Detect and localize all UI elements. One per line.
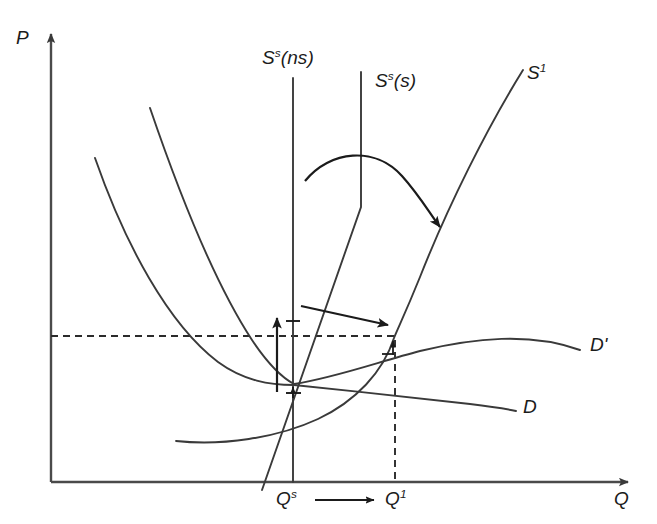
supply-ns-base: S (262, 47, 275, 68)
axis-tick-label-q-s: Qs (276, 489, 297, 508)
q-s-base: Q (276, 488, 291, 509)
curve-supply-one (176, 70, 523, 442)
curve-demand-prime (150, 108, 580, 384)
curve-demand (95, 158, 516, 411)
y-axis-label: P (16, 28, 29, 47)
curve-supply-storable (262, 72, 361, 490)
supply-s-base: S (375, 70, 388, 91)
supply-one-base: S (527, 62, 540, 83)
reference-lines-group (51, 336, 398, 482)
curve-label-supply-one: S1 (527, 63, 546, 82)
curve-label-demand-prime: D' (590, 335, 608, 354)
supply-demand-figure: P Q Ss(ns) Ss(s) S1 D' D Qs Q1 (0, 0, 657, 524)
annotations-group (277, 156, 440, 500)
curve-label-demand: D (523, 397, 537, 416)
demand-shift-arrow (301, 306, 388, 325)
q-1-base: Q (385, 488, 400, 509)
curve-label-supply-nonstorable: Ss(ns) (262, 48, 314, 67)
diagram-canvas (0, 0, 657, 524)
curves-group (95, 70, 580, 490)
supply-s-paren: (s) (394, 70, 416, 91)
supply-one-superscript: 1 (540, 61, 547, 74)
curve-label-supply-storable: Ss(s) (375, 71, 416, 90)
supply-ns-paren: (ns) (281, 47, 314, 68)
q-s-superscript: s (291, 487, 297, 500)
x-axis-label: Q (614, 489, 629, 508)
q-1-superscript: 1 (400, 487, 407, 500)
supply-rotation-arrow (305, 156, 440, 227)
axis-tick-label-q-1: Q1 (385, 489, 407, 508)
